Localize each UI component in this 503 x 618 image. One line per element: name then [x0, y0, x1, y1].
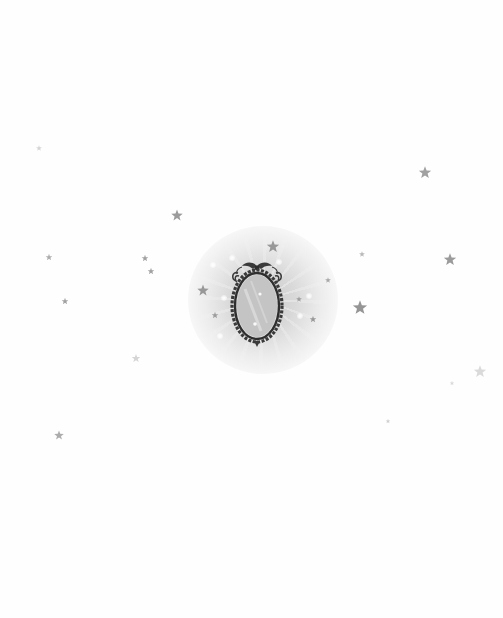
sparkle-icon — [306, 293, 312, 299]
star-icon — [142, 255, 149, 262]
star-icon — [148, 268, 155, 275]
star-icon — [310, 316, 317, 323]
star-icon — [325, 277, 331, 283]
decorative-canvas — [0, 0, 503, 618]
sparkle-icon — [210, 262, 216, 268]
star-icon — [171, 209, 183, 221]
star-icon — [267, 240, 280, 253]
sparkle-icon — [221, 295, 227, 301]
star-icon — [46, 254, 53, 261]
star-icon — [359, 251, 365, 257]
star-icon — [450, 381, 455, 386]
star-icon — [132, 354, 141, 363]
ornate-oval-mirror-icon — [228, 259, 286, 349]
star-icon — [36, 145, 42, 151]
star-icon — [54, 430, 64, 440]
star-icon — [444, 253, 457, 266]
star-icon — [296, 296, 302, 302]
star-icon — [386, 419, 391, 424]
star-icon — [197, 284, 209, 296]
star-icon — [474, 365, 487, 378]
star-icon — [212, 312, 219, 319]
sparkle-icon — [217, 333, 223, 339]
star-icon — [419, 166, 432, 179]
star-icon — [62, 298, 69, 305]
sparkle-icon — [297, 313, 303, 319]
star-icon — [353, 300, 368, 315]
